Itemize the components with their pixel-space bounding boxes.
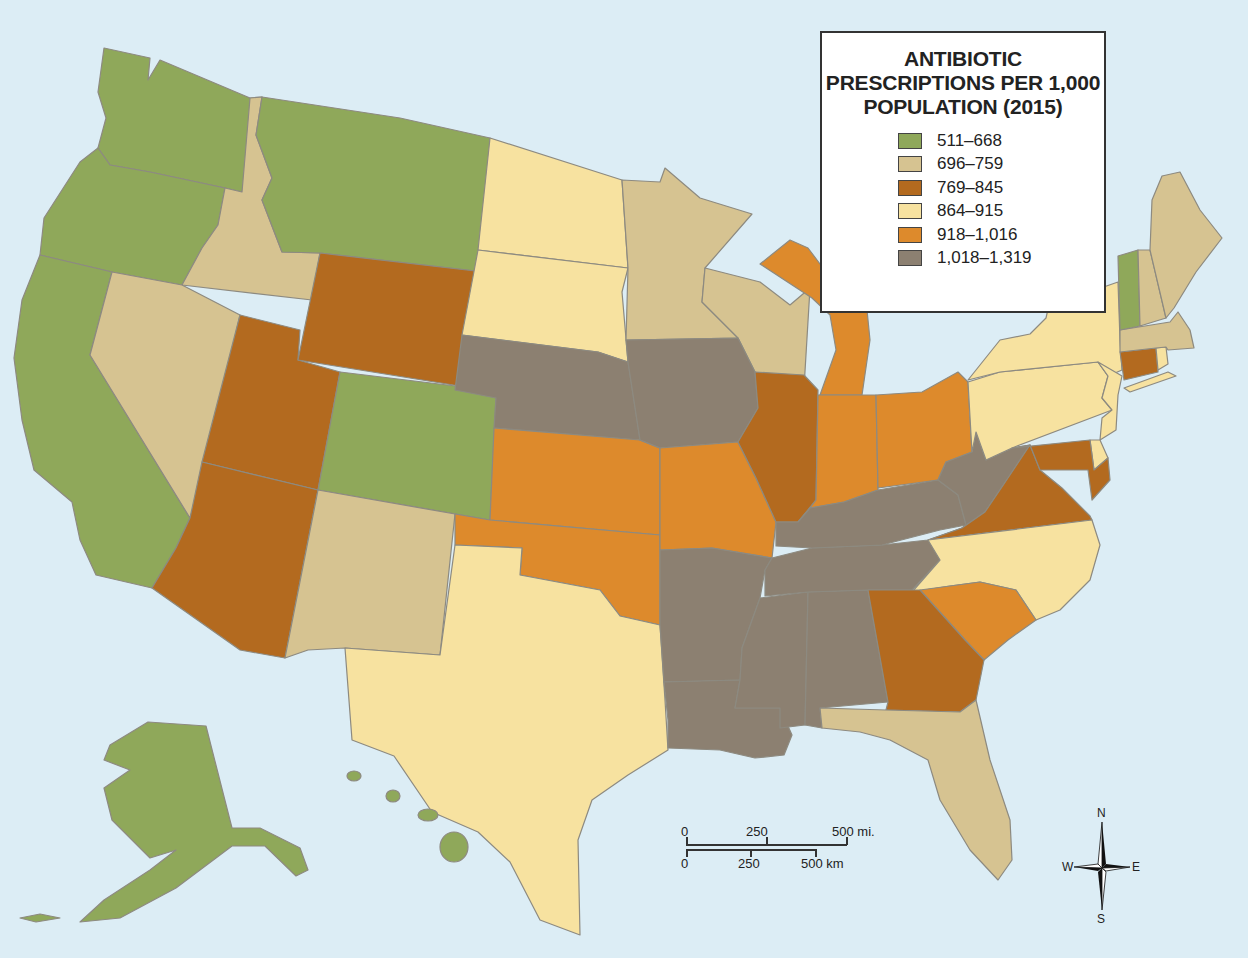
state-AK-aleutians[interactable]	[20, 914, 60, 922]
compass-rose: N S W E	[1062, 806, 1142, 928]
legend-item: 769–845	[898, 176, 1104, 200]
legend-box: ANTIBIOTIC PRESCRIPTIONS PER 1,000 POPUL…	[820, 31, 1106, 313]
scale-bar: 0 250 500 mi. 0 250 500 km	[676, 824, 876, 874]
state-ME[interactable]	[1150, 172, 1222, 318]
scale-mi-250: 250	[746, 824, 768, 839]
state-IA[interactable]	[626, 338, 758, 448]
compass-star-icon	[1062, 806, 1142, 928]
legend-swatch	[898, 250, 922, 266]
legend-title-line-1: ANTIBIOTIC	[822, 47, 1104, 71]
legend-title: ANTIBIOTIC PRESCRIPTIONS PER 1,000 POPUL…	[822, 47, 1104, 119]
legend-item: 864–915	[898, 200, 1104, 224]
scale-tick	[686, 837, 688, 845]
legend-swatch	[898, 156, 922, 172]
state-IN[interactable]	[810, 395, 878, 508]
legend-label: 864–915	[937, 201, 1003, 221]
scale-tick	[846, 837, 848, 845]
legend-label: 769–845	[937, 178, 1003, 198]
legend-item: 511–668	[898, 129, 1104, 153]
state-HI-kauai[interactable]	[347, 771, 361, 781]
legend-item: 1,018–1,319	[898, 247, 1104, 271]
legend-label: 918–1,016	[937, 225, 1017, 245]
state-HI-big-island[interactable]	[440, 832, 468, 862]
scale-tick	[766, 837, 768, 845]
legend-item: 696–759	[898, 153, 1104, 177]
legend-label: 696–759	[937, 154, 1003, 174]
state-CT[interactable]	[1120, 348, 1158, 380]
scale-km-0: 0	[681, 856, 688, 871]
legend-swatch	[898, 227, 922, 243]
state-RI[interactable]	[1156, 347, 1168, 370]
scale-km-500: 500 km	[801, 856, 844, 871]
state-HI-maui[interactable]	[418, 809, 438, 821]
legend-label: 511–668	[937, 131, 1002, 151]
scale-mi-500: 500 mi.	[832, 824, 875, 839]
state-MT[interactable]	[256, 97, 490, 272]
legend-swatch	[898, 133, 922, 149]
legend-label: 1,018–1,319	[937, 248, 1032, 268]
legend-item: 918–1,016	[898, 223, 1104, 247]
state-AK[interactable]	[80, 722, 308, 922]
state-HI-oahu[interactable]	[386, 790, 400, 802]
state-KS[interactable]	[490, 428, 660, 535]
legend-title-line-2: PRESCRIPTIONS PER 1,000	[822, 71, 1104, 95]
legend-swatch	[898, 180, 922, 196]
scale-km-250: 250	[738, 856, 760, 871]
state-ND[interactable]	[478, 138, 628, 268]
legend-swatch	[898, 203, 922, 219]
legend-title-line-3: POPULATION (2015)	[822, 95, 1104, 119]
legend-list: 511–668 696–759 769–845 864–915 918–1,01…	[898, 129, 1104, 270]
state-VT[interactable]	[1118, 250, 1140, 330]
